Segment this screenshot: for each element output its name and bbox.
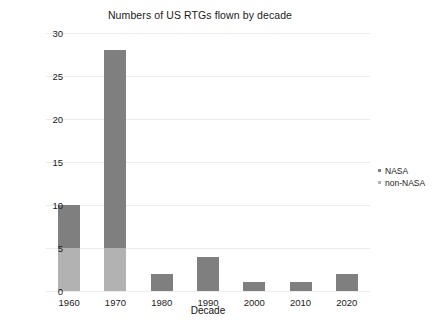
bar-group[interactable] <box>151 274 173 291</box>
plot-area: 1960197019801990200020102020 <box>46 33 370 291</box>
gridline-y-10 <box>46 205 370 206</box>
bar-segment-nasa[interactable] <box>104 50 126 248</box>
bar-segment-nasa[interactable] <box>197 257 219 291</box>
bar-group[interactable] <box>336 274 358 291</box>
y-tick-label: 5 <box>23 243 63 254</box>
legend-label: NASA <box>385 166 408 176</box>
chart-legend: NASAnon-NASA <box>378 165 446 189</box>
gridline-y-25 <box>46 76 370 77</box>
gridline-y-30 <box>46 33 370 34</box>
bar-segment-nasa[interactable] <box>151 274 173 291</box>
bar-segment-non-nasa[interactable] <box>104 248 126 291</box>
legend-swatch-icon <box>378 169 381 172</box>
y-tick-label: 15 <box>23 157 63 168</box>
bar-segment-nasa[interactable] <box>290 282 312 291</box>
legend-swatch-icon <box>378 181 381 184</box>
gridline-y-20 <box>46 119 370 120</box>
bar-group[interactable] <box>290 282 312 291</box>
x-axis-title: Decade <box>46 305 370 316</box>
bar-group[interactable] <box>104 50 126 291</box>
gridline-y-15 <box>46 162 370 163</box>
bar-group[interactable] <box>243 282 265 291</box>
legend-item-nasa[interactable]: NASA <box>378 165 446 176</box>
bar-segment-nasa[interactable] <box>336 274 358 291</box>
y-tick-label: 30 <box>23 28 63 39</box>
chart-title: Numbers of US RTGs flown by decade <box>0 9 400 21</box>
y-tick-label: 25 <box>23 71 63 82</box>
legend-label: non-NASA <box>385 178 425 188</box>
y-tick-label: 20 <box>23 114 63 125</box>
y-tick-label: 10 <box>23 200 63 211</box>
bar-segment-nasa[interactable] <box>243 282 265 291</box>
bar-group[interactable] <box>197 257 219 291</box>
chart-figure: Numbers of US RTGs flown by decade 19601… <box>0 0 448 327</box>
y-tick-label: 0 <box>23 286 63 297</box>
gridline-y-0 <box>46 291 370 292</box>
legend-item-non-nasa[interactable]: non-NASA <box>378 177 446 188</box>
gridline-y-5 <box>46 248 370 249</box>
